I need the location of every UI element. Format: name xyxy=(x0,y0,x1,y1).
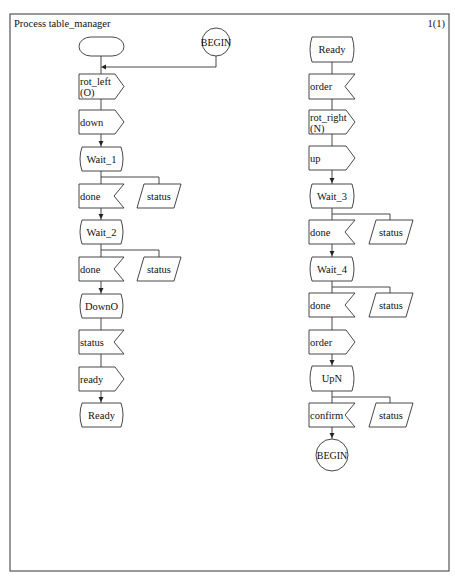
save-label: status xyxy=(379,300,403,311)
output-label: ready xyxy=(80,374,104,385)
state-label: Ready xyxy=(319,44,347,55)
state-label: DownO xyxy=(85,301,119,312)
state-label: Wait_4 xyxy=(317,264,348,275)
output-label: rot_left xyxy=(80,76,111,87)
state-label: Wait_2 xyxy=(86,227,116,238)
save-label: status xyxy=(147,264,171,275)
state-label: Wait_1 xyxy=(86,154,116,165)
save-label: status xyxy=(379,410,403,421)
input-label: status xyxy=(80,337,104,348)
begin-connector-label: BEGIN xyxy=(201,37,232,48)
input-label: done xyxy=(80,264,101,275)
page-number: 1(1) xyxy=(428,18,446,30)
output-label: rot_right xyxy=(310,112,347,123)
input-label: order xyxy=(310,81,333,92)
save-label: status xyxy=(147,191,171,202)
input-label: done xyxy=(310,300,331,311)
state-label: Ready xyxy=(88,410,116,421)
start-symbol[interactable] xyxy=(79,37,124,56)
output-label-2: (O) xyxy=(80,87,95,99)
input-label: confirm xyxy=(310,410,343,421)
output-label: up xyxy=(310,153,321,164)
save-label: status xyxy=(379,227,403,238)
diagram-title: Process table_manager xyxy=(14,18,111,29)
output-label: down xyxy=(80,117,104,128)
sdl-process-diagram: Process table_manager 1(1) BEGIN rot_lef… xyxy=(0,0,455,581)
connector-label: BEGIN xyxy=(317,450,348,461)
output-label: order xyxy=(310,337,333,348)
state-label: Wait_3 xyxy=(317,191,347,202)
state-label: UpN xyxy=(322,373,343,384)
input-label: done xyxy=(310,227,331,238)
output-label-2: (N) xyxy=(310,123,325,135)
arrow-head xyxy=(101,65,106,70)
input-label: done xyxy=(80,191,101,202)
diagram-frame xyxy=(10,14,449,571)
